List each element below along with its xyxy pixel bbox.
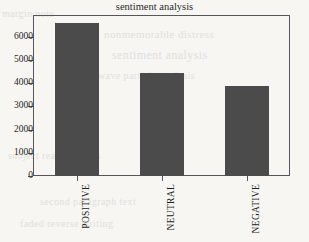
y-axis-tick-label: 5000: [7, 55, 33, 65]
x-axis-tick: [247, 176, 248, 181]
x-axis-tick-label: POSITIVE: [81, 184, 91, 229]
bar: [55, 23, 99, 176]
x-axis-tick-label: NEUTRAL: [166, 184, 176, 230]
y-axis-tick-label: 0: [7, 171, 33, 181]
plot-area: [34, 16, 289, 176]
y-axis-tick-label: 3000: [7, 102, 33, 112]
y-axis-tick-label: 6000: [7, 32, 33, 42]
x-axis-tick: [162, 176, 163, 181]
chart-title: sentiment analysis: [0, 1, 309, 12]
y-axis-tick-label: 4000: [7, 78, 33, 88]
chart-container: margin note nonmemorable distress sentim…: [0, 0, 309, 242]
bleed-text: faded reverse writing: [20, 218, 113, 229]
y-axis-tick-label: 2000: [7, 125, 33, 135]
x-axis-tick: [77, 176, 78, 181]
x-axis-tick-label: NEGATIVE: [251, 184, 261, 233]
y-axis: 0100020003000400050006000: [0, 0, 33, 242]
y-axis-tick-label: 1000: [7, 148, 33, 158]
bar: [140, 73, 184, 176]
bar: [225, 86, 269, 176]
